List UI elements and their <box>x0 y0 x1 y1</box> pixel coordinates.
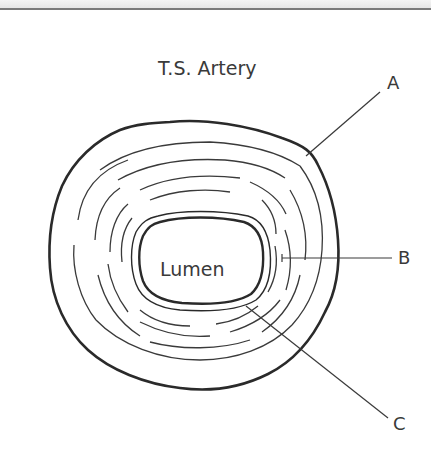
muscle-layer-lines <box>74 142 323 360</box>
label-b: B <box>398 247 410 268</box>
label-c: C <box>393 413 406 434</box>
label-a: A <box>387 72 400 93</box>
artery-diagram: T.S. Artery Lumen A B <box>0 0 431 461</box>
outer-wall <box>50 121 339 390</box>
leader-line-c <box>246 306 388 418</box>
lumen-label: Lumen <box>160 258 225 280</box>
diagram-title: T.S. Artery <box>157 57 257 79</box>
leader-line-a <box>306 92 380 156</box>
